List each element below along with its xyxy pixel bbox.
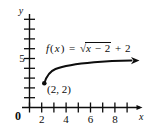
equation-equals-sign: =: [65, 42, 79, 54]
x-tick-label-6: 6: [88, 113, 94, 125]
function-equation-label: f(x) = √x − 2 + 2: [46, 42, 130, 54]
equation-outer-constant: 2: [125, 42, 131, 54]
origin-label: 0: [15, 109, 21, 123]
x-axis-label: x: [138, 111, 144, 122]
point-coordinate-label: (2, 2): [47, 83, 71, 96]
function-graph-figure: y x 0 5 2 4 6 8 (2, 2) f(x) = √x − 2 + 2: [0, 0, 147, 131]
x-tick-label-8: 8: [112, 113, 118, 125]
equation-radical: √x − 2: [79, 42, 111, 54]
x-tick-label-4: 4: [63, 113, 69, 125]
radicand-constant: 2: [105, 42, 111, 54]
y-tick-label-5: 5: [19, 52, 25, 64]
radicand-operator: −: [91, 42, 105, 54]
equation-argument: x: [55, 42, 60, 54]
equation-outer-operator: +: [111, 42, 125, 54]
point-marker: [42, 81, 47, 86]
x-tick-label-2: 2: [39, 113, 45, 125]
x-axis-arrowhead: [137, 105, 143, 110]
function-curve: [44, 61, 131, 84]
graph-canvas: y x 0 5 2 4 6 8 (2, 2): [0, 0, 147, 131]
y-axis-label: y: [18, 5, 24, 16]
radicand: x − 2: [85, 42, 111, 54]
